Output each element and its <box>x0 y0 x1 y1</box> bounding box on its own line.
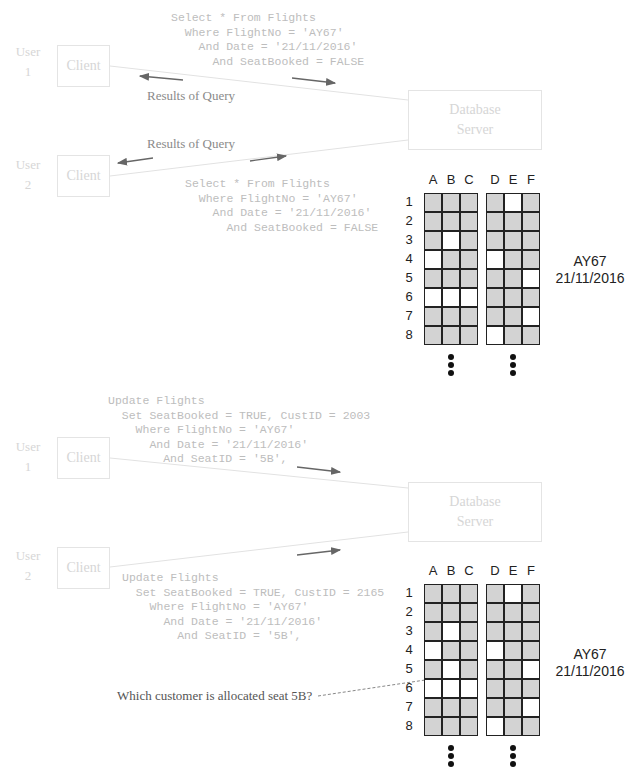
seat-6c[interactable] <box>460 288 478 307</box>
seat-2f[interactable] <box>522 212 540 231</box>
seat-6a[interactable] <box>424 679 442 698</box>
seat-8f[interactable] <box>522 326 540 345</box>
seat-7a[interactable] <box>424 307 442 326</box>
seat-1c[interactable] <box>460 584 478 603</box>
seat-7e[interactable] <box>504 698 522 717</box>
seat-5c[interactable] <box>460 660 478 679</box>
seat-2e[interactable] <box>504 603 522 622</box>
seat-7c[interactable] <box>460 307 478 326</box>
seat-8d[interactable] <box>486 326 504 345</box>
seat-8d[interactable] <box>486 717 504 736</box>
seat-8a[interactable] <box>424 717 442 736</box>
results-caption-2: Results of Query <box>147 136 235 152</box>
user-number: 1 <box>8 62 48 82</box>
seat-6d[interactable] <box>486 288 504 307</box>
result-arrow-2 <box>118 158 153 163</box>
seat-4a[interactable] <box>424 250 442 269</box>
seat-2f[interactable] <box>522 603 540 622</box>
seat-7b[interactable] <box>442 307 460 326</box>
seat-4d[interactable] <box>486 641 504 660</box>
seat-1f[interactable] <box>522 193 540 212</box>
seat-6a[interactable] <box>424 288 442 307</box>
seat-7f[interactable] <box>522 698 540 717</box>
seat-5f[interactable] <box>522 660 540 679</box>
seat-4b[interactable] <box>442 250 460 269</box>
seat-5e[interactable] <box>504 660 522 679</box>
seat-2a[interactable] <box>424 212 442 231</box>
seat-4e[interactable] <box>504 641 522 660</box>
seat-5e[interactable] <box>504 269 522 288</box>
seat-2b[interactable] <box>442 212 460 231</box>
seat-3b[interactable] <box>442 231 460 250</box>
seat-5d[interactable] <box>486 269 504 288</box>
seat-1e[interactable] <box>504 193 522 212</box>
seat-8a[interactable] <box>424 326 442 345</box>
seat-5f[interactable] <box>522 269 540 288</box>
seat-5c[interactable] <box>460 269 478 288</box>
update-arrow-1 <box>297 467 340 472</box>
seat-3a[interactable] <box>424 231 442 250</box>
seat-2c[interactable] <box>460 603 478 622</box>
seat-2e[interactable] <box>504 212 522 231</box>
seat-4f[interactable] <box>522 250 540 269</box>
seat-7d[interactable] <box>486 307 504 326</box>
seat-6d[interactable] <box>486 679 504 698</box>
seat-6f[interactable] <box>522 288 540 307</box>
seat-5b[interactable] <box>442 269 460 288</box>
seat-3a[interactable] <box>424 622 442 641</box>
seat-3d[interactable] <box>486 622 504 641</box>
seat-8f[interactable] <box>522 717 540 736</box>
seat-6b[interactable] <box>442 679 460 698</box>
seat-8b[interactable] <box>442 326 460 345</box>
seat-4b[interactable] <box>442 641 460 660</box>
seat-4e[interactable] <box>504 250 522 269</box>
seat-8e[interactable] <box>504 717 522 736</box>
seat-6e[interactable] <box>504 679 522 698</box>
seat-3e[interactable] <box>504 622 522 641</box>
seat-2a[interactable] <box>424 603 442 622</box>
seat-1c[interactable] <box>460 193 478 212</box>
seat-8c[interactable] <box>460 717 478 736</box>
seat-4c[interactable] <box>460 250 478 269</box>
seat-1b[interactable] <box>442 584 460 603</box>
seat-5d[interactable] <box>486 660 504 679</box>
seat-3c[interactable] <box>460 622 478 641</box>
seat-5b[interactable] <box>442 660 460 679</box>
seat-7e[interactable] <box>504 307 522 326</box>
seat-3f[interactable] <box>522 622 540 641</box>
seat-8e[interactable] <box>504 326 522 345</box>
seat-7a[interactable] <box>424 698 442 717</box>
seat-1e[interactable] <box>504 584 522 603</box>
seat-6c[interactable] <box>460 679 478 698</box>
seat-3b[interactable] <box>442 622 460 641</box>
seat-4c[interactable] <box>460 641 478 660</box>
seat-1a[interactable] <box>424 584 442 603</box>
seat-3e[interactable] <box>504 231 522 250</box>
seat-4d[interactable] <box>486 250 504 269</box>
seat-1a[interactable] <box>424 193 442 212</box>
seat-6f[interactable] <box>522 679 540 698</box>
seat-5a[interactable] <box>424 660 442 679</box>
seat-3c[interactable] <box>460 231 478 250</box>
seat-6e[interactable] <box>504 288 522 307</box>
seat-1f[interactable] <box>522 584 540 603</box>
seat-3f[interactable] <box>522 231 540 250</box>
seat-4a[interactable] <box>424 641 442 660</box>
seat-2b[interactable] <box>442 603 460 622</box>
seat-2d[interactable] <box>486 212 504 231</box>
seat-7d[interactable] <box>486 698 504 717</box>
seat-7b[interactable] <box>442 698 460 717</box>
seat-4f[interactable] <box>522 641 540 660</box>
seat-2c[interactable] <box>460 212 478 231</box>
seat-1d[interactable] <box>486 193 504 212</box>
seat-7f[interactable] <box>522 307 540 326</box>
seat-8c[interactable] <box>460 326 478 345</box>
seat-6b[interactable] <box>442 288 460 307</box>
seat-5a[interactable] <box>424 269 442 288</box>
seat-8b[interactable] <box>442 717 460 736</box>
seat-2d[interactable] <box>486 603 504 622</box>
seat-7c[interactable] <box>460 698 478 717</box>
seat-3d[interactable] <box>486 231 504 250</box>
seat-1b[interactable] <box>442 193 460 212</box>
seat-1d[interactable] <box>486 584 504 603</box>
